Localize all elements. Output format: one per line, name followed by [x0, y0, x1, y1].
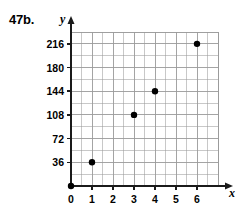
x-tick-label: 4	[152, 193, 158, 205]
x-tick-label: 3	[131, 193, 137, 205]
y-tick-label: 36	[52, 156, 64, 168]
y-tick-label: 72	[52, 133, 64, 145]
y-tick-label: 216	[46, 38, 64, 50]
x-axis-label: x	[229, 186, 235, 201]
data-point	[194, 41, 200, 47]
y-tick-label: 144	[46, 85, 64, 97]
figure-47b: 47b. 3672108144180216 0123456 y x	[0, 0, 242, 216]
x-tick-label: 0	[68, 193, 74, 205]
x-tick-label: 2	[110, 193, 116, 205]
x-tick-label: 1	[89, 193, 95, 205]
data-point	[131, 112, 137, 118]
data-point	[152, 88, 158, 94]
scatter-plot	[0, 0, 242, 216]
x-tick-label: 6	[194, 193, 200, 205]
data-point	[89, 159, 95, 165]
y-tick-label: 108	[46, 109, 64, 121]
y-tick-label: 180	[46, 62, 64, 74]
x-tick-label: 5	[173, 193, 179, 205]
data-point	[68, 183, 74, 189]
y-axis-label: y	[60, 12, 65, 27]
